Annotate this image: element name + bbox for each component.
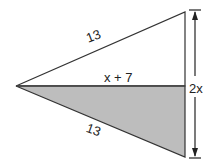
upper-hypotenuse-label: 13 [84, 26, 103, 45]
lower-hypotenuse-label: 13 [84, 120, 103, 139]
triangle-diagram: 13 x + 7 2x 13 [0, 0, 214, 168]
height-label: 2x [189, 81, 203, 96]
shared-side-label: x + 7 [104, 70, 133, 85]
upper-triangle [16, 12, 185, 86]
lower-triangle-shaded [16, 86, 185, 157]
